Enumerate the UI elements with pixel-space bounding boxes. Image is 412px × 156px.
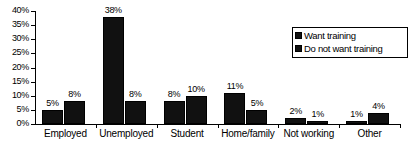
y-axis-tick — [31, 110, 35, 111]
y-axis-tick-label: 5% — [0, 105, 29, 114]
bar-value-label: 8% — [121, 90, 150, 99]
legend-label: Want training — [304, 31, 356, 41]
y-axis-tick — [31, 11, 35, 12]
bar — [246, 110, 267, 124]
y-axis-tick — [31, 82, 35, 83]
bar — [42, 110, 63, 124]
y-axis-tick — [31, 124, 35, 125]
y-axis-tick — [31, 25, 35, 26]
legend-swatch-icon — [295, 32, 302, 39]
y-axis-tick-label: 20% — [0, 63, 29, 72]
bar — [346, 121, 367, 124]
bar — [103, 17, 124, 124]
legend-label: Do not want training — [304, 44, 383, 54]
bar-value-label: 38% — [99, 6, 128, 15]
y-axis-tick — [31, 39, 35, 40]
y-axis-tick-label: 35% — [0, 20, 29, 29]
bar — [125, 101, 146, 124]
y-axis-tick-label: 30% — [0, 34, 29, 43]
grouped-bar-chart: 0%5%10%15%20%25%30%35%40% 5%8%38%8%8%10%… — [0, 0, 412, 156]
y-axis-line — [35, 11, 36, 124]
bar-value-label: 4% — [364, 102, 393, 111]
y-axis-tick-label: 0% — [0, 119, 29, 128]
bar-value-label: 10% — [182, 85, 211, 94]
legend-swatch-icon — [295, 45, 302, 52]
bar-value-label: 1% — [342, 110, 371, 119]
x-axis-category-label: Other — [333, 128, 406, 139]
bar — [368, 113, 389, 124]
bar-value-label: 5% — [38, 99, 67, 108]
legend-item-do-not-want-training: Do not want training — [295, 42, 405, 55]
bar-value-label: 11% — [220, 82, 249, 91]
legend-item-want-training: Want training — [295, 29, 405, 42]
y-axis-tick-label: 25% — [0, 48, 29, 57]
bar — [285, 118, 306, 124]
y-axis-tick — [31, 96, 35, 97]
bar — [64, 101, 85, 124]
y-axis-tick-label: 15% — [0, 77, 29, 86]
y-axis-tick — [31, 68, 35, 69]
y-axis-tick-label: 40% — [0, 6, 29, 15]
chart-legend: Want training Do not want training — [292, 27, 408, 58]
bar — [307, 121, 328, 124]
bar-value-label: 1% — [303, 110, 332, 119]
bar-value-label: 8% — [60, 90, 89, 99]
bar — [186, 96, 207, 124]
bar — [224, 93, 245, 124]
bar — [164, 101, 185, 124]
bar-value-label: 5% — [242, 99, 271, 108]
y-axis-tick — [31, 53, 35, 54]
y-axis-tick-label: 10% — [0, 91, 29, 100]
